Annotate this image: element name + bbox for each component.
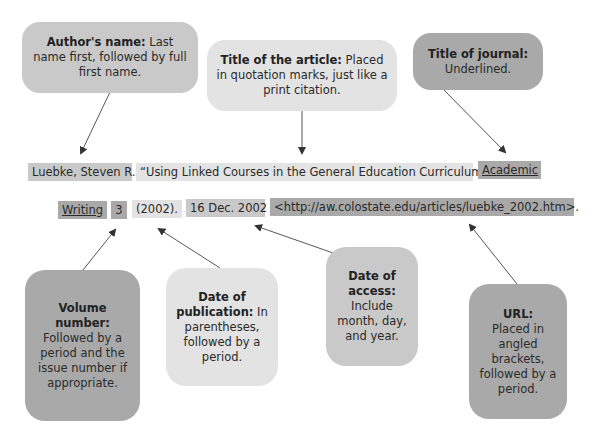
callout-author-name: Author's name: Last name first, followed… [22, 22, 198, 93]
callout-article-title: Title of the article: Placed in quotatio… [207, 40, 397, 111]
arrow-author [81, 92, 110, 153]
citation-author: Luebke, Steven R. [28, 163, 132, 181]
callout-volume-number: Volume number: Followed by a period and … [25, 270, 140, 421]
citation-volume: 3 [111, 201, 127, 219]
callout-heading: Author's name: [47, 35, 146, 49]
callout-heading: Date of publication: [176, 290, 253, 319]
arrow-access-date [256, 226, 336, 254]
citation-publication-date: (2002). [132, 200, 182, 218]
citation-article-title: “Using Linked Courses in the General Edu… [136, 163, 473, 181]
callout-body: Underlined. [445, 62, 512, 77]
callout-access-date: Date of access: Include month, day, and … [326, 247, 418, 366]
callout-heading: Date of access: [334, 269, 410, 299]
callout-body: Followed by a period and the issue numbe… [33, 331, 132, 391]
callout-journal-title: Title of journal: Underlined. [413, 33, 543, 90]
citation-journal-part2: Writing [58, 201, 107, 219]
arrow-publication-date [159, 229, 220, 268]
callout-url: URL: Placed in angled brackets, followed… [469, 284, 567, 419]
arrow-url [470, 225, 517, 284]
citation-journal-part1: Academic [478, 161, 541, 179]
arrow-journal [443, 89, 505, 152]
callout-body: Placed in angled brackets, followed by a… [477, 322, 559, 397]
arrow-volume [83, 230, 115, 270]
citation-url: <http://aw.colostate.edu/articles/luebke… [270, 198, 574, 216]
callout-heading: URL: [503, 307, 533, 322]
callout-heading: Title of the article: [221, 53, 342, 67]
callout-heading: Title of journal: [428, 47, 528, 62]
callout-body: Include month, day, and year. [334, 299, 410, 344]
citation-access-date: 16 Dec. 2002 [186, 199, 265, 217]
callout-heading: Volume number: [33, 301, 132, 331]
callout-publication-date: Date of publication: In parentheses, fol… [166, 268, 278, 386]
